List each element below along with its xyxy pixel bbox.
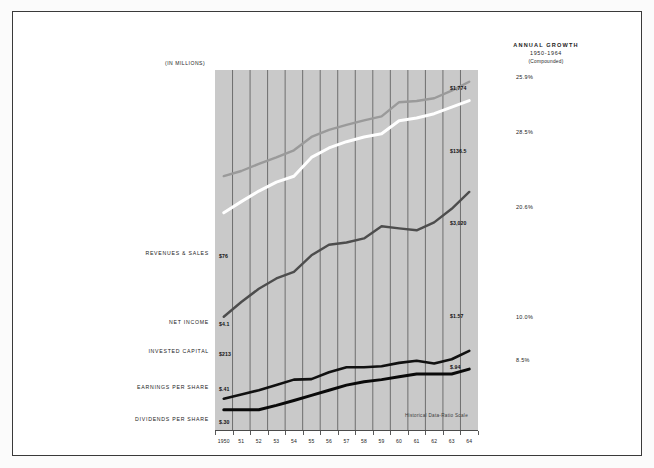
x-axis-label: 63 (449, 438, 455, 444)
x-tick (285, 431, 286, 435)
growth-header-note: (Compounded) (491, 58, 601, 65)
growth-header-period: 1950-1964 (491, 49, 601, 57)
end-value-tag: $136.5 (450, 148, 466, 154)
chart-page: (IN MILLIONS) ANNUAL GROWTH 1950-1964 (C… (0, 0, 654, 468)
x-axis-label: 52 (256, 438, 262, 444)
x-tick (268, 431, 269, 435)
x-axis-label: 59 (379, 438, 385, 444)
growth-value: 25.9% (516, 74, 533, 80)
growth-value: 20.6% (516, 204, 533, 210)
growth-value: 8.5% (516, 357, 530, 363)
x-axis-label: 56 (326, 438, 332, 444)
x-tick (215, 431, 216, 435)
x-axis-label: 60 (396, 438, 402, 444)
x-tick (460, 431, 461, 435)
x-axis-label: 58 (361, 438, 367, 444)
x-tick (338, 431, 339, 435)
chart-svg (215, 70, 478, 430)
series-line (224, 192, 469, 317)
start-value-tag: $4.1 (219, 321, 230, 327)
series-label-invested-capital: INVESTED CAPITAL (113, 348, 209, 354)
growth-header-title: ANNUAL GROWTH (491, 41, 601, 49)
x-axis-label: 57 (344, 438, 350, 444)
x-axis-label: 1950 (218, 438, 230, 444)
x-axis-label: 61 (414, 438, 420, 444)
x-axis-label: 55 (308, 438, 314, 444)
series-label-earnings-per-share: EARNINGS PER SHARE (113, 384, 209, 390)
x-axis-label: 64 (466, 438, 472, 444)
end-value-tag: $1,774 (450, 85, 466, 91)
x-tick (408, 431, 409, 435)
series-label-dividends-per-share: DIVIDENDS PER SHARE (113, 416, 209, 422)
series-line (224, 101, 469, 213)
x-axis-label: 53 (273, 438, 279, 444)
plot-area (215, 70, 478, 430)
x-axis-label: 54 (291, 438, 297, 444)
x-tick (373, 431, 374, 435)
x-tick (250, 431, 251, 435)
chart-frame: (IN MILLIONS) ANNUAL GROWTH 1950-1964 (C… (12, 11, 642, 456)
x-tick (355, 431, 356, 435)
start-value-tag: $.30 (219, 419, 230, 425)
end-value-tag: $3,020 (450, 220, 466, 226)
x-tick (233, 431, 234, 435)
end-value-tag: $1.57 (450, 313, 463, 319)
growth-value: 10.0% (516, 314, 533, 320)
annual-growth-header: ANNUAL GROWTH 1950-1964 (Compounded) (491, 41, 601, 65)
scale-note: Historical Data-Ratio Scale (405, 413, 468, 418)
x-axis-label: 62 (431, 438, 437, 444)
x-axis-line (215, 430, 478, 431)
x-tick (478, 431, 479, 435)
x-tick (303, 431, 304, 435)
series-label-net-income: NET INCOME (113, 319, 209, 325)
growth-value: 28.5% (516, 129, 533, 135)
units-caption: (IN MILLIONS) (165, 60, 205, 66)
x-tick (320, 431, 321, 435)
start-value-tag: $213 (219, 351, 231, 357)
end-value-tag: $.94 (450, 364, 461, 370)
x-tick (425, 431, 426, 435)
start-value-tag: $.41 (219, 386, 230, 392)
start-value-tag: $76 (219, 253, 228, 259)
x-tick (390, 431, 391, 435)
x-axis-label: 51 (238, 438, 244, 444)
series-line (224, 82, 469, 176)
x-tick (443, 431, 444, 435)
series-label-revenues-sales: REVENUES & SALES (113, 250, 209, 256)
